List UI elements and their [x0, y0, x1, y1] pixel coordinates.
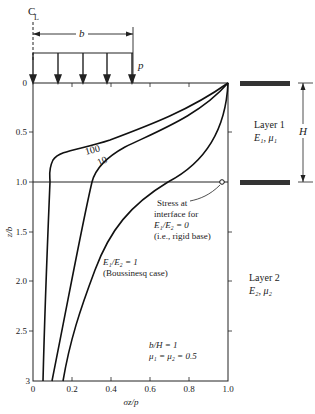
svg-text:0.4: 0.4 [105, 384, 117, 394]
layer2-title: Layer 2 [249, 272, 280, 283]
parameters-note: b/H = 1 μ₁ = μ₂ = 0.5 [148, 340, 197, 361]
svg-text:0: 0 [31, 384, 36, 394]
svg-text:1.0: 1.0 [222, 384, 234, 394]
load-arrows [30, 53, 135, 83]
arrow-left-icon [33, 32, 40, 37]
curve-100-label: 100 [84, 142, 101, 157]
svg-text:E₁/E₂ = 1: E₁/E₂ = 1 [102, 257, 138, 267]
svg-text:0.8: 0.8 [183, 384, 195, 394]
svg-text:interface for: interface for [154, 209, 198, 219]
svg-text:(i.e., rigid base): (i.e., rigid base) [154, 231, 211, 241]
layer2-props: E₂, μ₂ [248, 285, 273, 296]
svg-text:E₁/E₂ = 0: E₁/E₂ = 0 [153, 220, 189, 230]
svg-text:Stress at: Stress at [157, 198, 188, 208]
rigid-base-point [220, 180, 225, 185]
interface-hatch [240, 180, 290, 185]
curve-10-label: 10 [95, 154, 109, 168]
y-tick-labels: 0 0.5 1.0 1.5 2.0 2.5 3 [16, 78, 31, 386]
arrow-right-icon [126, 32, 133, 37]
svg-text:0.2: 0.2 [66, 384, 77, 394]
svg-text:2.5: 2.5 [16, 326, 28, 336]
surface-hatch [240, 81, 290, 86]
arrow-down-icon [301, 175, 306, 182]
svg-text:1.5: 1.5 [16, 227, 28, 237]
svg-text:2.0: 2.0 [16, 276, 28, 286]
svg-text:(Boussinesq case): (Boussinesq case) [103, 268, 168, 278]
width-label: b [79, 27, 85, 39]
svg-text:0.5: 0.5 [16, 127, 28, 137]
y-axis-label: z/b [4, 226, 14, 238]
arrow-up-icon [301, 83, 306, 90]
svg-text:b/H = 1: b/H = 1 [149, 340, 178, 350]
svg-text:μ₁ = μ₂ = 0.5: μ₁ = μ₂ = 0.5 [148, 351, 197, 361]
x-tick-labels: 0 0.2 0.4 0.6 0.8 1.0 [31, 384, 234, 394]
layered-stress-diagram: C L b p H Layer 1 E₁, μ₁ Layer 2 E₂, μ₂ … [0, 0, 315, 414]
layer1-title: Layer 1 [254, 119, 285, 130]
leader-line [190, 185, 220, 201]
thickness-label: H [298, 125, 308, 137]
interface-note: Stress at interface for E₁/E₂ = 0 (i.e.,… [153, 198, 211, 241]
boussinesq-label: E₁/E₂ = 1 (Boussinesq case) [102, 257, 168, 278]
x-axis-label: σz/p [124, 397, 139, 407]
svg-text:1.0: 1.0 [16, 177, 28, 187]
svg-text:3: 3 [26, 376, 31, 386]
pressure-label: p [137, 59, 144, 71]
svg-text:0.6: 0.6 [144, 384, 156, 394]
layer1-props: E₁, μ₁ [253, 132, 277, 143]
svg-text:0: 0 [23, 78, 28, 88]
centerline-sub: L [34, 13, 39, 22]
